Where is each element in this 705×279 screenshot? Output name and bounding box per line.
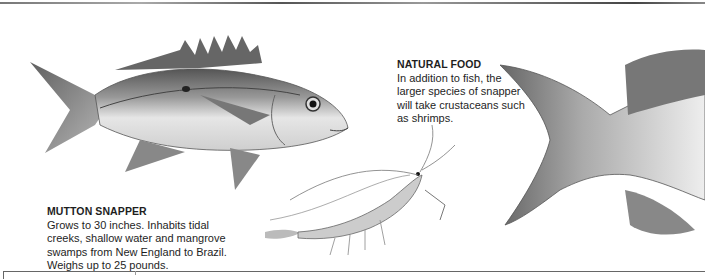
tail-closeup-illustration (500, 0, 705, 279)
mutton-snapper-caption: MUTTON SNAPPER Grows to 30 inches. Inhab… (47, 205, 247, 273)
natural-food-title: NATURAL FOOD (397, 58, 527, 72)
natural-food-description: In addition to fish, the larger species … (397, 72, 527, 126)
natural-food-caption: NATURAL FOOD In addition to fish, the la… (397, 58, 527, 126)
mutton-snapper-title: MUTTON SNAPPER (47, 205, 247, 219)
shrimp-illustration (260, 120, 460, 260)
mutton-snapper-description: Grows to 30 inches. Inhabits tidal creek… (47, 219, 247, 273)
bottom-divider (3, 271, 705, 272)
bottom-divider-tick (3, 271, 4, 279)
bottom-divider-tick (135, 271, 136, 275)
